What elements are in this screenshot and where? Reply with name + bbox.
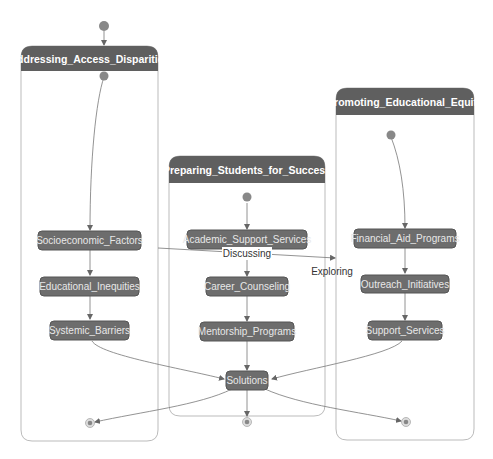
initial-state-dot: [100, 72, 109, 81]
svg-text:Educational_Inequities: Educational_Inequities: [39, 281, 140, 292]
svg-text:Systemic_Barriers: Systemic_Barriers: [49, 325, 130, 336]
state-outreach-initiatives[interactable]: Outreach_Initiatives: [361, 275, 449, 293]
svg-text:Academic_Support_Services: Academic_Support_Services: [183, 234, 311, 245]
initial-state-dot: [243, 193, 252, 202]
svg-text:Solutions: Solutions: [226, 375, 267, 386]
initial-state-dot: [99, 21, 109, 31]
state-career-counseling[interactable]: Career_Counseling: [204, 277, 290, 296]
state-academic-support-services[interactable]: Academic_Support_Services: [183, 230, 311, 249]
final-state-right: [402, 418, 411, 427]
state-mentorship-programs[interactable]: Mentorship_Programs: [198, 322, 296, 341]
svg-text:Outreach_Initiatives: Outreach_Initiatives: [361, 279, 449, 290]
final-state-left: [86, 419, 95, 428]
final-state-center: [243, 418, 252, 427]
state-socioeconomic-factors[interactable]: Socioeconomic_Factors: [36, 231, 143, 250]
state-solutions[interactable]: Solutions: [226, 371, 268, 390]
state-financial-aid-programs[interactable]: Financial_Aid_Programs: [351, 229, 460, 248]
svg-text:Support_Services: Support_Services: [366, 325, 445, 336]
cluster-title: Addressing_Access_Disparities: [10, 53, 170, 65]
edge-label-discussing: Discussing: [223, 248, 271, 259]
state-diagram: Addressing_Access_Disparities Preparing_…: [0, 0, 493, 459]
edge-label-exploring: Exploring: [311, 266, 353, 277]
svg-text:Financial_Aid_Programs: Financial_Aid_Programs: [351, 233, 460, 244]
state-systemic-barriers[interactable]: Systemic_Barriers: [49, 321, 130, 340]
initial-state-dot: [387, 131, 396, 140]
svg-text:Career_Counseling: Career_Counseling: [204, 281, 290, 292]
state-educational-inequities[interactable]: Educational_Inequities: [39, 277, 140, 296]
cluster-title: Preparing_Students_for_Success: [163, 164, 331, 176]
svg-text:Socioeconomic_Factors: Socioeconomic_Factors: [36, 235, 143, 246]
state-support-services[interactable]: Support_Services: [366, 321, 445, 340]
cluster-title: Promoting_Educational_Equity: [327, 96, 483, 108]
svg-text:Mentorship_Programs: Mentorship_Programs: [198, 326, 296, 337]
